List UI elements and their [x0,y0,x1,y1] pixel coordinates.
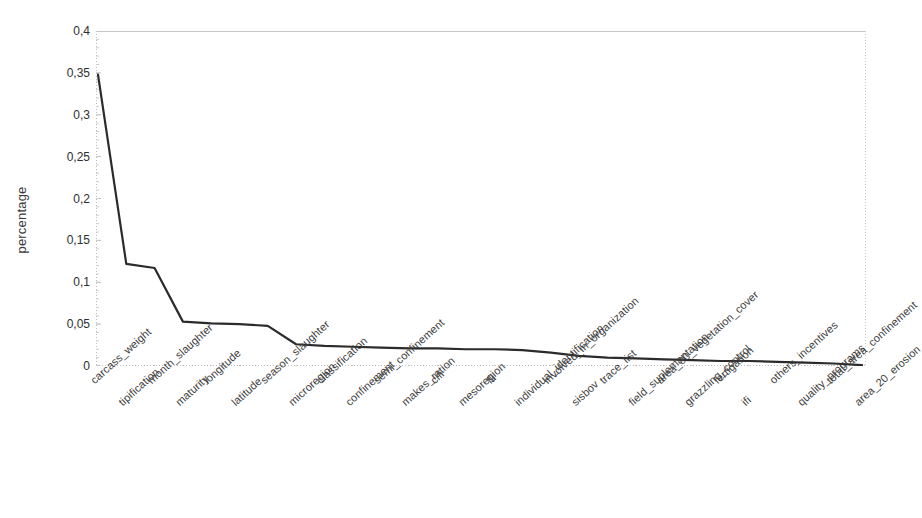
data-series-line [98,75,862,366]
y-axis-tick-label: 0,3 [44,109,90,121]
y-axis-title: percentage [14,150,29,290]
x-axis-tick-label: ifi [739,394,753,408]
x-axis-tick-labels: carcass_weighttipificationmonth_slaughte… [0,368,908,518]
y-axis-tick-label: 0,25 [44,151,90,163]
y-axis-tick-label: 0,05 [44,318,90,330]
y-axis-tick-label: 0,4 [44,25,90,37]
y-axis-tick-label: 0,35 [44,67,90,79]
y-axis-tick-label: 0,1 [44,276,90,288]
plot-area [96,31,866,366]
x-axis-tick-label: mesoregion [456,360,507,408]
y-axis-tick-label: 0,15 [44,234,90,246]
plot-svg [96,31,866,366]
scan-artifact-speck: · [866,252,873,261]
x-axis-tick-label: sisbov [569,378,601,408]
x-axis-tick-label: latitude [229,375,264,408]
y-axis-tick-label: 0,2 [44,193,90,205]
